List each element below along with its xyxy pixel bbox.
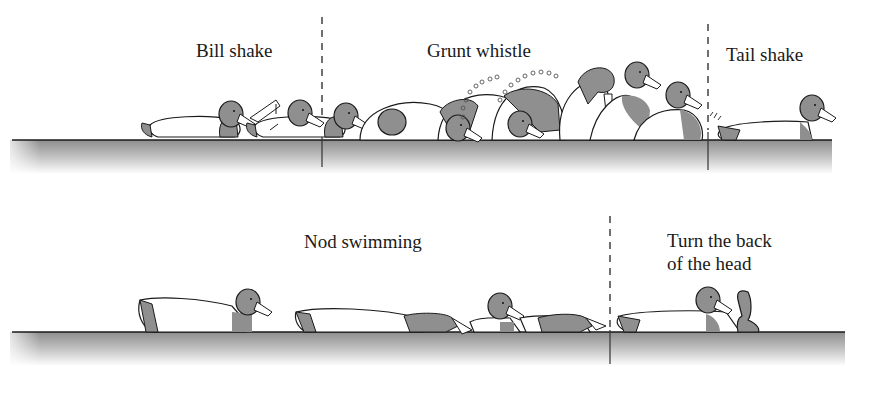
water-top [0,138,832,178]
duck-bill-shake-1 [141,101,255,137]
duck-nod-swimming-4 [520,314,606,332]
duck-grunt-whistle-sequence [360,62,702,142]
duck-turn-back-of-head [617,287,759,332]
duck-nod-swimming-2 [295,309,472,334]
water-bottom [0,330,845,370]
duck-nod-swimming-3 [470,293,524,332]
duck-bill-shake-2 [246,100,345,137]
duck-nod-swimming-1 [139,289,272,332]
duck-display-illustration [0,0,884,416]
duck-tail-shake [710,95,836,140]
